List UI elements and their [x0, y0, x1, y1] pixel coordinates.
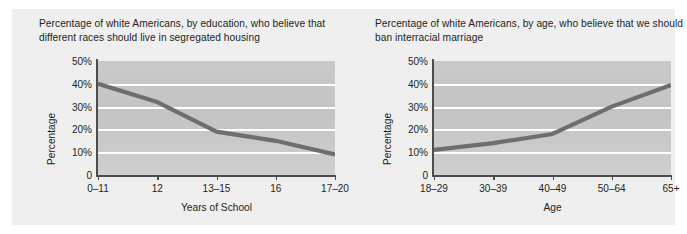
x-tick-mark: [612, 176, 613, 180]
x-tick-mark: [671, 176, 672, 180]
y-axis-line-age: [432, 59, 434, 177]
x-tick-mark: [276, 176, 277, 180]
y-tick-label: 50%: [28, 56, 92, 67]
chart-title-age: Percentage of white Americans, by age, w…: [375, 17, 685, 44]
x-tick-mark: [434, 176, 435, 180]
y-axis-line-education: [96, 59, 98, 177]
x-tick-mark: [553, 176, 554, 180]
y-tick-label: 40%: [28, 78, 92, 89]
x-tick-label: 18–29: [420, 183, 448, 194]
series-line-age: [434, 61, 671, 175]
y-tick-label: 30%: [28, 101, 92, 112]
x-tick-label: 30–39: [479, 183, 507, 194]
plot-area-age: [434, 61, 671, 175]
x-tick-mark: [98, 176, 99, 180]
y-axis-title-education: Percentage: [46, 113, 57, 165]
y-tick-label: 0: [364, 170, 428, 181]
chart-title-education: Percentage of white Americans, by educat…: [39, 17, 349, 44]
x-tick-label: 13–15: [203, 183, 231, 194]
figure-card: Percentage of white Americans, by educat…: [12, 9, 675, 225]
plot-wrap-education: 50% 40% 30% 20% 10% 0 Percentage: [24, 53, 355, 225]
x-tick-label: 40–49: [539, 183, 567, 194]
x-tick-label: 0–11: [87, 183, 109, 194]
plot-area-education: [98, 61, 335, 175]
x-tick-mark: [217, 176, 218, 180]
x-tick-label: 65+: [663, 183, 680, 194]
x-axis-title-education: Years of School: [98, 202, 335, 213]
y-tick-label: 50%: [364, 56, 428, 67]
x-tick-mark: [493, 176, 494, 180]
x-axis-title-age: Age: [434, 202, 671, 213]
x-tick-label: 16: [270, 183, 281, 194]
y-tick-label: 40%: [364, 78, 428, 89]
figure-container: Percentage of white Americans, by educat…: [0, 0, 687, 234]
y-axis-title-age: Percentage: [382, 113, 393, 165]
chart-panel-education: Percentage of white Americans, by educat…: [24, 9, 355, 225]
x-tick-label: 50–64: [598, 183, 626, 194]
chart-panel-age: Percentage of white Americans, by age, w…: [360, 9, 687, 225]
series-line-education: [98, 61, 335, 175]
y-axis-tick-labels-age: 50% 40% 30% 20% 10% 0: [360, 53, 428, 225]
y-tick-label: 10%: [364, 147, 428, 158]
plot-wrap-age: 50% 40% 30% 20% 10% 0 Percentage: [360, 53, 687, 225]
x-tick-mark: [335, 176, 336, 180]
y-axis-tick-labels-education: 50% 40% 30% 20% 10% 0: [24, 53, 92, 225]
y-tick-label: 30%: [364, 101, 428, 112]
y-tick-label: 20%: [364, 124, 428, 135]
x-tick-label: 17–20: [321, 183, 349, 194]
y-tick-label: 20%: [28, 124, 92, 135]
y-tick-label: 10%: [28, 147, 92, 158]
y-tick-label: 0: [28, 170, 92, 181]
x-tick-label: 12: [152, 183, 163, 194]
x-tick-mark: [157, 176, 158, 180]
